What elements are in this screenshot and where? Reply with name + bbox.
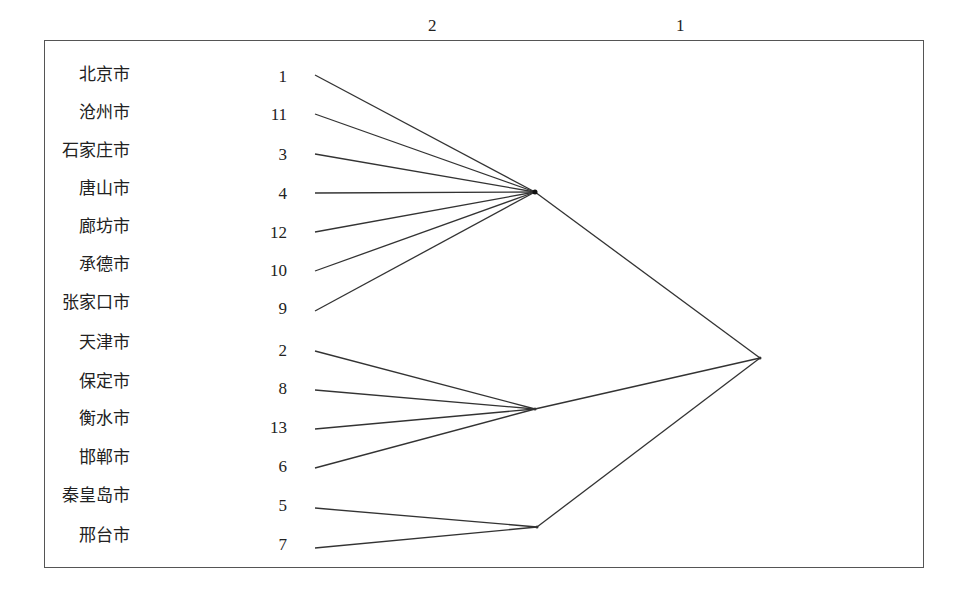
cluster-node	[534, 408, 537, 411]
branch-line	[315, 192, 535, 271]
cluster-node	[533, 190, 538, 195]
branch-line	[315, 154, 535, 192]
branch-line	[315, 192, 535, 193]
branch-line	[315, 192, 535, 311]
branch-line	[315, 114, 535, 192]
cluster-node	[536, 526, 539, 529]
branch-line	[315, 409, 535, 429]
branch-line	[315, 409, 535, 468]
branch-line	[315, 527, 537, 548]
dendrogram-lines	[0, 0, 960, 599]
branch-line	[315, 508, 537, 527]
branch-line	[315, 75, 535, 192]
branch-line	[315, 192, 535, 232]
root-node	[759, 357, 762, 360]
branch-line	[535, 192, 760, 358]
branch-line	[315, 351, 535, 409]
branch-line	[315, 390, 535, 409]
